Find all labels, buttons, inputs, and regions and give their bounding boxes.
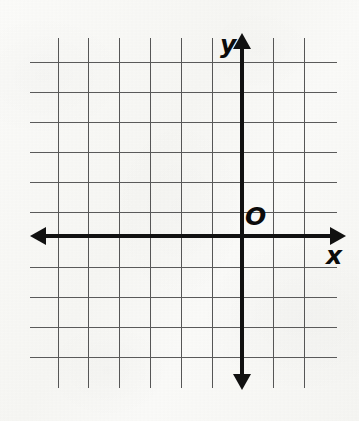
grid-line-vertical <box>181 38 182 388</box>
grid-line-horizontal <box>30 212 337 213</box>
grid-line-horizontal <box>30 62 337 63</box>
grid-line-vertical <box>212 38 213 388</box>
x-axis-line <box>44 234 332 238</box>
grid-line-horizontal <box>30 267 337 268</box>
grid-line-vertical <box>58 38 59 388</box>
grid-line-horizontal <box>30 297 337 298</box>
x-axis-arrow-left-icon <box>30 227 46 245</box>
y-axis-line <box>240 48 244 376</box>
coordinate-plane-screenshot: y x O <box>0 0 359 421</box>
grid-line-horizontal <box>30 357 337 358</box>
grid-line-vertical <box>273 38 274 388</box>
grid-line-horizontal <box>30 327 337 328</box>
grid-line-vertical <box>88 38 89 388</box>
grid-line-vertical <box>150 38 151 388</box>
coordinate-plot-area: y x O <box>0 0 359 421</box>
x-axis-label: x <box>326 243 342 268</box>
grid-line-vertical <box>304 38 305 388</box>
grid-line-horizontal <box>30 152 337 153</box>
grid-line-horizontal <box>30 122 337 123</box>
y-axis-label: y <box>220 32 236 57</box>
grid-line-horizontal <box>30 92 337 93</box>
origin-label: O <box>245 204 266 229</box>
grid-line-vertical <box>119 38 120 388</box>
grid-line-horizontal <box>30 182 337 183</box>
y-axis-arrow-down-icon <box>233 374 251 390</box>
